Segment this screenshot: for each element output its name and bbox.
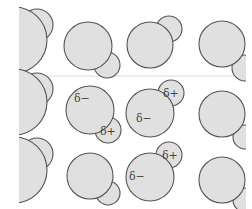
polar-molecules-diagram: δ− δ+ δ+ δ− δ+ δ− bbox=[0, 0, 252, 209]
molecule-r3-c3: δ+ δ− bbox=[126, 142, 182, 201]
partial-negative-label: δ− bbox=[74, 92, 90, 105]
atom-large bbox=[64, 22, 112, 70]
atom-large bbox=[199, 21, 245, 67]
partial-negative-label: δ− bbox=[136, 112, 152, 125]
atom-large bbox=[67, 153, 113, 199]
left-crop-mask bbox=[0, 0, 19, 209]
molecule-r3-c4 bbox=[199, 157, 252, 209]
molecule-r3-c2 bbox=[67, 153, 120, 205]
partial-positive-label: δ+ bbox=[162, 149, 178, 162]
atom-large bbox=[199, 157, 245, 203]
partial-positive-label: δ+ bbox=[163, 87, 179, 100]
molecule-r2-c3: δ+ δ− bbox=[126, 80, 184, 137]
molecule-r1-c3 bbox=[127, 16, 182, 68]
partial-positive-label: δ+ bbox=[100, 125, 116, 138]
molecule-r2-c2: δ− δ+ bbox=[66, 86, 121, 143]
molecule-r2-c4 bbox=[199, 91, 252, 149]
molecule-r1-c2 bbox=[64, 22, 120, 78]
partial-negative-label: δ− bbox=[129, 170, 145, 183]
right-crop-mask bbox=[246, 0, 252, 209]
atom-large bbox=[199, 91, 245, 137]
molecule-r1-c4 bbox=[199, 21, 252, 81]
atom-large bbox=[127, 22, 173, 68]
